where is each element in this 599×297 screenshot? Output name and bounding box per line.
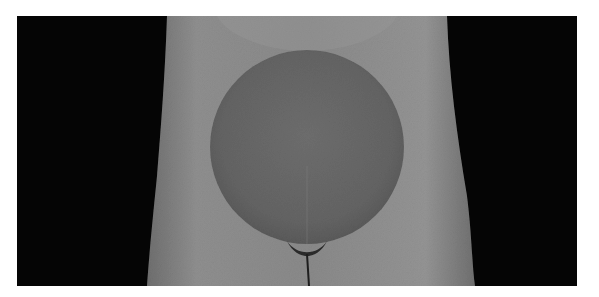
torso-illustration	[17, 16, 577, 286]
torso-photo	[17, 16, 577, 286]
